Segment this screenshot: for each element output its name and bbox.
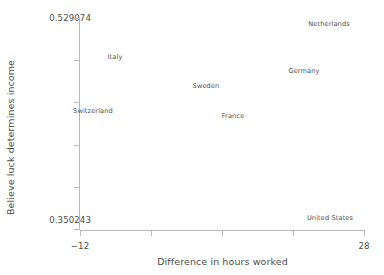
- y-axis-title: Believe luck determines income: [5, 60, 16, 215]
- y-axis-tick: [74, 60, 79, 61]
- data-point-label: Sweden: [193, 83, 220, 90]
- data-point-label: Germany: [288, 68, 319, 75]
- y-axis-max-tick-label: 0.529074: [29, 14, 91, 23]
- x-axis-tick: [151, 231, 152, 236]
- y-axis-line: [79, 18, 80, 230]
- data-point-label: Italy: [108, 54, 123, 61]
- y-axis-tick: [74, 187, 79, 188]
- x-axis-tick: [80, 231, 81, 236]
- data-point-label: Switzerland: [73, 108, 113, 115]
- data-point-label: France: [222, 113, 245, 120]
- x-axis-max-tick-label: 28: [334, 242, 384, 251]
- x-axis-tick: [364, 231, 365, 236]
- x-axis-title: Difference in hours worked: [80, 257, 365, 267]
- scatter-chart: Believe luck determines income 0.529074 …: [0, 0, 384, 275]
- y-axis-tick: [74, 229, 79, 230]
- x-axis-tick: [222, 231, 223, 236]
- data-point-label: United States: [307, 215, 353, 222]
- y-axis-tick: [74, 18, 79, 19]
- x-axis-min-tick-label: −12: [50, 242, 110, 251]
- y-axis-min-tick-label: 0.350243: [29, 216, 91, 225]
- data-point-label: Netherlands: [308, 21, 350, 28]
- y-axis-tick: [74, 102, 79, 103]
- y-axis-tick: [74, 145, 79, 146]
- x-axis-tick: [293, 231, 294, 236]
- y-axis-title-wrapper: Believe luck determines income: [0, 0, 20, 275]
